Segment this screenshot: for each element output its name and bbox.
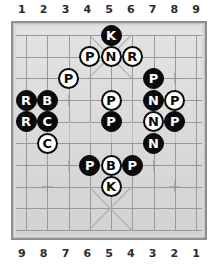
column-label-bottom-1: 1: [185, 245, 207, 263]
column-label-top-3: 3: [55, 1, 77, 19]
column-label-bottom-5: 5: [98, 245, 120, 263]
piece-black-r[interactable]: R: [16, 111, 37, 132]
piece-black-p[interactable]: P: [164, 111, 185, 132]
piece-black-c[interactable]: C: [37, 111, 58, 132]
column-label-bottom-6: 6: [76, 245, 98, 263]
column-label-top-4: 4: [76, 1, 98, 19]
piece-white-p[interactable]: P: [79, 46, 100, 67]
column-label-top-7: 7: [142, 1, 164, 19]
piece-black-k[interactable]: K: [101, 25, 122, 46]
piece-white-p[interactable]: P: [58, 68, 79, 89]
piece-black-b[interactable]: B: [37, 90, 58, 111]
piece-black-r[interactable]: R: [16, 90, 37, 111]
game-board[interactable]: KPNRPPRBPNPRCPNPCNPBPK: [11, 21, 207, 240]
piece-white-b[interactable]: B: [101, 155, 122, 176]
piece-black-p[interactable]: P: [101, 111, 122, 132]
column-label-top-1: 1: [11, 1, 33, 19]
board-surface: KPNRPPRBPNPRCPNPCNPBPK: [16, 26, 202, 235]
column-label-bottom-7: 7: [55, 245, 77, 263]
column-label-bottom-9: 9: [11, 245, 33, 263]
piece-white-r[interactable]: R: [122, 46, 143, 67]
piece-black-n[interactable]: N: [143, 90, 164, 111]
column-label-top-5: 5: [98, 1, 120, 19]
piece-black-n[interactable]: N: [143, 133, 164, 154]
column-label-top-2: 2: [33, 1, 55, 19]
column-label-bottom-8: 8: [33, 245, 55, 263]
column-label-top-9: 9: [185, 1, 207, 19]
column-ruler-bottom: 987654321: [11, 245, 207, 263]
piece-black-p[interactable]: P: [122, 155, 143, 176]
piece-white-c[interactable]: C: [37, 133, 58, 154]
piece-white-k[interactable]: K: [101, 176, 122, 197]
piece-white-p[interactable]: P: [164, 90, 185, 111]
piece-white-p[interactable]: P: [101, 90, 122, 111]
piece-white-n[interactable]: N: [101, 46, 122, 67]
piece-layer: KPNRPPRBPNPRCPNPCNPBPK: [16, 26, 202, 235]
column-label-bottom-2: 2: [163, 245, 185, 263]
column-ruler-top: 123456789: [11, 1, 207, 19]
piece-black-p[interactable]: P: [79, 155, 100, 176]
piece-black-p[interactable]: P: [143, 68, 164, 89]
column-label-bottom-3: 3: [142, 245, 164, 263]
xiangqi-board-screenshot: 123456789 KPNRPPRBPNPRCPNPCNPBPK 9876543…: [0, 0, 218, 268]
column-label-bottom-4: 4: [120, 245, 142, 263]
column-label-top-6: 6: [120, 1, 142, 19]
piece-white-n[interactable]: N: [143, 111, 164, 132]
column-label-top-8: 8: [163, 1, 185, 19]
